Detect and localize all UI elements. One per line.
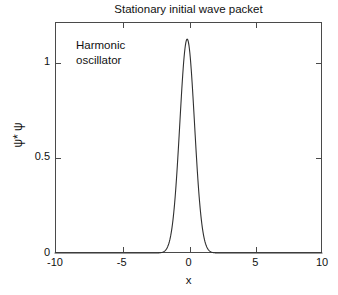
data-curve <box>55 22 322 253</box>
y-axis-label: ψ* ψ <box>11 105 25 165</box>
xtick-label--5: -5 <box>102 256 142 269</box>
y-axis-label-text: ψ* ψ <box>11 122 25 147</box>
chart-title: Stationary initial wave packet <box>55 2 322 16</box>
x-axis-label: x <box>55 274 322 286</box>
xtick-label-5: 5 <box>235 256 275 269</box>
figure: Stationary initial wave packet Harmonic … <box>0 0 338 295</box>
xtick-label-10: 10 <box>302 256 338 269</box>
ytick-label-1: 1 <box>10 55 50 68</box>
ytick-label-0: 0 <box>10 246 50 259</box>
xtick-label-0: 0 <box>169 256 209 269</box>
